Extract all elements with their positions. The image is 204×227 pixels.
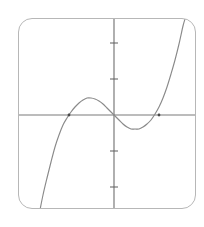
cubic-curve-path	[40, 19, 185, 209]
cubic-function-graph-widget	[0, 0, 204, 227]
plot-card	[18, 18, 196, 209]
x-intercept-dot-left	[68, 114, 71, 117]
coordinate-plane-svg	[19, 19, 196, 209]
x-intercept-dot-right	[158, 114, 161, 117]
